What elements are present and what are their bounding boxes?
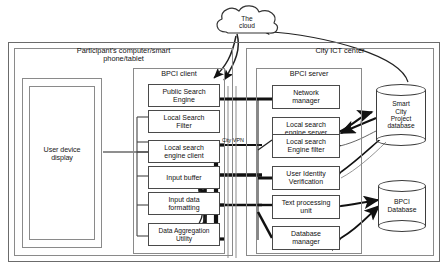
node-data-aggregation-utility[interactable]: Data Aggregation Utility [148,223,220,246]
node-label-local-search-engine-client: Local search engine client [164,144,204,159]
node-label-user-identity-verification: User Identity Verification [286,170,325,185]
subpanel-title-bpci-server: BPCI server [256,70,362,78]
node-user-identity-verification[interactable]: User Identity Verification [272,166,340,190]
node-label-database-manager: Database manager [291,230,321,245]
panel-title-participant: Participant's computer/smart phone/table… [14,47,233,64]
node-database-manager[interactable]: Database manager [272,226,340,250]
node-input-buffer[interactable]: Input buffer [148,166,220,189]
node-text-processing-unit[interactable]: Text processing unit [272,195,340,219]
user-device-inner [29,86,95,240]
panel-title-city-ict: City ICT center [246,47,434,55]
node-label-public-search-engine: Public Search Engine [162,88,205,103]
node-label-local-search-filter: Local Search Filter [164,114,205,129]
cloud-label: The cloud [210,15,284,30]
node-network-manager[interactable]: Network manager [272,85,340,109]
subpanel-title-bpci-client: BPCI client [133,70,225,78]
node-public-search-engine[interactable]: Public Search Engine [148,84,220,107]
node-local-search-filter[interactable]: Local Search Filter [148,110,220,133]
architecture-diagram: Participant's computer/smart phone/table… [0,0,448,270]
node-local-search-engine-client[interactable]: Local search engine client [148,140,220,163]
db-label-bpci: BPCI Database [387,198,416,213]
node-local-search-engine-filter[interactable]: Local search Engine filter [272,134,340,158]
db-label-smart-city: Smart City Project database [387,100,414,130]
cloud-node: The cloud [210,4,284,40]
db-caption-bpci: BPCI Database [378,180,426,232]
node-input-data-formatting[interactable]: Input data formatting [148,192,220,215]
node-label-input-buffer: Input buffer [166,174,201,182]
node-label-text-processing-unit: Text processing unit [282,199,331,214]
node-label-data-aggregation-utility: Data Aggregation Utility [159,227,210,242]
db-smart-city-project-database[interactable]: Smart City Project database [376,84,426,146]
node-label-local-search-engine-filter: Local search Engine filter [286,138,326,153]
node-label-network-manager: Network manager [292,89,320,104]
db-caption-smart-city: Smart City Project database [376,84,426,146]
db-bpci-database[interactable]: BPCI Database [378,180,426,232]
node-label-input-data-formatting: Input data formatting [168,196,199,211]
vpn-label: City VPN [222,137,244,143]
